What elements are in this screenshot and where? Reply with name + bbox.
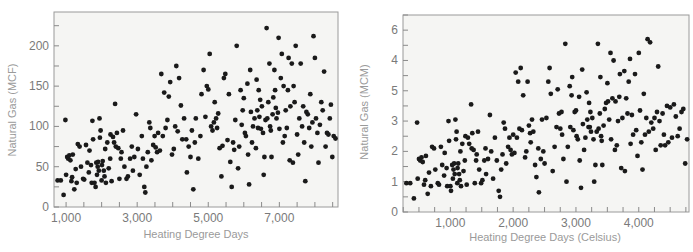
data-point bbox=[131, 168, 136, 173]
data-point bbox=[607, 117, 612, 122]
data-point bbox=[109, 179, 114, 184]
data-point bbox=[267, 61, 272, 66]
data-point bbox=[499, 167, 504, 172]
data-point bbox=[210, 128, 215, 133]
data-point bbox=[451, 176, 456, 181]
data-point bbox=[250, 140, 255, 145]
data-point bbox=[544, 116, 549, 121]
data-point bbox=[471, 148, 476, 153]
data-point bbox=[113, 102, 118, 107]
data-point bbox=[170, 152, 175, 157]
data-point bbox=[333, 136, 338, 141]
x-tick-label: 5,000 bbox=[193, 211, 223, 225]
data-point bbox=[255, 108, 260, 113]
data-point bbox=[203, 114, 208, 119]
data-point bbox=[225, 138, 230, 143]
data-point bbox=[596, 41, 601, 46]
data-point bbox=[415, 176, 420, 181]
data-point bbox=[528, 140, 533, 145]
data-point bbox=[179, 103, 184, 108]
data-point bbox=[177, 76, 182, 81]
data-point bbox=[649, 120, 654, 125]
data-point bbox=[165, 118, 170, 123]
data-point bbox=[89, 163, 94, 168]
x-tick-label: 3,000 bbox=[122, 211, 152, 225]
y-tick-label: 5 bbox=[391, 84, 398, 98]
data-point bbox=[115, 131, 120, 136]
data-point bbox=[105, 140, 110, 145]
y-tick-label: 50 bbox=[36, 160, 50, 174]
data-point bbox=[618, 72, 623, 77]
data-point bbox=[534, 175, 539, 180]
data-point bbox=[464, 182, 469, 187]
data-point bbox=[488, 113, 493, 118]
data-point bbox=[596, 126, 601, 131]
data-point bbox=[584, 90, 589, 95]
data-point bbox=[64, 172, 69, 177]
data-point bbox=[440, 163, 445, 168]
data-point bbox=[144, 164, 149, 169]
data-point bbox=[143, 190, 148, 195]
data-point bbox=[442, 151, 447, 156]
data-point bbox=[320, 108, 325, 113]
x-tick-label: 4,000 bbox=[624, 216, 654, 230]
data-point bbox=[507, 135, 512, 140]
y-tick-label: 100 bbox=[29, 119, 49, 133]
data-point bbox=[302, 140, 307, 145]
data-point bbox=[653, 148, 658, 153]
data-point bbox=[272, 68, 277, 73]
data-point bbox=[639, 140, 644, 145]
data-point bbox=[480, 178, 485, 183]
data-point bbox=[675, 134, 680, 139]
data-point bbox=[516, 79, 521, 84]
data-point bbox=[656, 64, 661, 69]
data-point bbox=[591, 137, 596, 142]
data-point bbox=[246, 152, 251, 157]
data-point bbox=[238, 88, 243, 93]
data-point bbox=[247, 182, 252, 187]
data-point bbox=[491, 176, 496, 181]
data-point bbox=[95, 172, 100, 177]
scatter-charts: 050100150200 1,0003,0005,0007,000 Heatin… bbox=[0, 0, 693, 252]
data-point bbox=[296, 152, 301, 157]
data-point bbox=[630, 113, 635, 118]
data-point bbox=[644, 116, 649, 121]
data-point bbox=[279, 52, 284, 57]
data-point bbox=[599, 134, 604, 139]
data-point bbox=[536, 146, 541, 151]
data-point bbox=[310, 120, 315, 125]
data-point bbox=[606, 99, 611, 104]
data-point bbox=[220, 143, 225, 148]
data-point bbox=[685, 137, 690, 142]
data-point bbox=[635, 154, 640, 159]
data-point bbox=[547, 66, 552, 71]
data-point bbox=[583, 135, 588, 140]
data-point bbox=[199, 92, 204, 97]
data-point bbox=[99, 178, 104, 183]
data-point bbox=[452, 161, 457, 166]
data-point bbox=[646, 129, 651, 134]
data-point bbox=[283, 108, 288, 113]
data-point bbox=[316, 160, 321, 165]
data-point bbox=[322, 69, 327, 74]
data-point bbox=[69, 179, 74, 184]
y-axis-label-left: Natural Gas (MCF) bbox=[6, 64, 18, 157]
data-point bbox=[626, 79, 631, 84]
data-point bbox=[184, 137, 189, 142]
data-point bbox=[613, 148, 618, 153]
data-point bbox=[198, 134, 203, 139]
data-point bbox=[249, 110, 254, 115]
data-point bbox=[672, 102, 677, 107]
data-point bbox=[598, 75, 603, 80]
data-point bbox=[470, 131, 475, 136]
data-point bbox=[550, 169, 555, 174]
data-point bbox=[489, 149, 494, 154]
data-point bbox=[541, 149, 546, 154]
data-point bbox=[264, 26, 269, 31]
x-tick-label: 2,000 bbox=[498, 216, 528, 230]
data-point bbox=[634, 128, 639, 133]
data-point bbox=[219, 174, 224, 179]
data-point bbox=[439, 144, 444, 149]
data-point bbox=[590, 116, 595, 121]
data-point bbox=[429, 184, 434, 189]
